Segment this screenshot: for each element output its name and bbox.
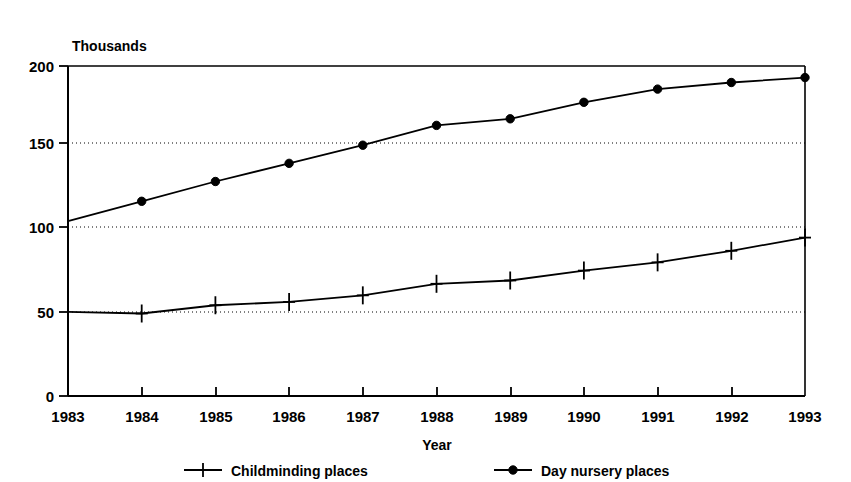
line-chart: 200 150 100 50 0 Thousands 1983 1984 198… xyxy=(0,0,851,482)
y-axis: 200 150 100 50 0 xyxy=(29,58,68,405)
legend-label-childminding: Childminding places xyxy=(231,463,368,479)
y-tick-label-0: 0 xyxy=(46,388,54,405)
x-tick-label-1985: 1985 xyxy=(199,408,232,425)
y-tick-label-150: 150 xyxy=(29,135,54,152)
y-tick-label-50: 50 xyxy=(37,304,54,321)
chart-canvas: 200 150 100 50 0 Thousands 1983 1984 198… xyxy=(0,0,851,482)
dot-marker-icon xyxy=(432,121,440,129)
y-unit-label: Thousands xyxy=(72,38,147,54)
x-tick-label-1988: 1988 xyxy=(420,408,453,425)
x-tick-label-1992: 1992 xyxy=(715,408,748,425)
x-tick-label-1984: 1984 xyxy=(125,408,159,425)
legend-item-day-nursery-places[interactable]: Day nursery places xyxy=(494,463,670,479)
x-axis-title: Year xyxy=(422,437,452,453)
dot-marker-icon xyxy=(727,78,735,86)
legend: Childminding places Day nursery places xyxy=(184,463,670,479)
plot-background xyxy=(68,66,805,396)
dot-marker-icon xyxy=(138,197,146,205)
x-tick-label-1990: 1990 xyxy=(567,408,600,425)
dot-marker-icon xyxy=(285,159,293,167)
plus-marker-icon xyxy=(196,463,210,477)
x-tick-label-1987: 1987 xyxy=(346,408,379,425)
x-tick-label-1991: 1991 xyxy=(641,408,674,425)
dot-marker-icon xyxy=(211,177,219,185)
x-tick-label-1986: 1986 xyxy=(272,408,305,425)
x-tick-label-1993: 1993 xyxy=(788,408,821,425)
x-tick-label-1983: 1983 xyxy=(51,408,84,425)
dot-marker-icon xyxy=(509,466,517,474)
x-tick-label-1989: 1989 xyxy=(494,408,527,425)
y-tick-label-200: 200 xyxy=(29,58,54,75)
y-tick-label-100: 100 xyxy=(29,219,54,236)
dot-marker-icon xyxy=(653,85,661,93)
dot-marker-icon xyxy=(506,115,514,123)
dot-marker-icon xyxy=(801,73,809,81)
legend-label-day-nursery: Day nursery places xyxy=(541,463,670,479)
dot-marker-icon xyxy=(359,141,367,149)
dot-marker-icon xyxy=(580,98,588,106)
legend-item-childminding-places[interactable]: Childminding places xyxy=(184,463,368,479)
